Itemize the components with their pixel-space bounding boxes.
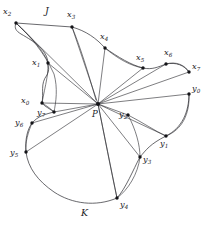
label-x2-subscript: 2 <box>8 11 12 17</box>
label-x5: x5 <box>136 53 144 62</box>
label-y4-base: y <box>120 199 125 209</box>
vertex-dot-y0 <box>187 92 190 95</box>
vertex-dot-y6 <box>30 121 33 124</box>
label-x2-base: x <box>3 6 8 16</box>
label-x5-subscript: 5 <box>141 57 145 63</box>
label-y3-base: y <box>143 154 148 164</box>
curve-y0-y1-arc <box>166 94 189 136</box>
label-x2: x2 <box>3 7 11 16</box>
label-x1-base: x <box>32 57 37 67</box>
label-y7: y7 <box>37 108 45 117</box>
label-x6: x6 <box>164 48 172 57</box>
figure-container: x0x1x2x3x4x5x6x7y0y1y2y3y4y5y6y7PJK <box>0 0 215 226</box>
chord-p-to-x3 <box>72 27 98 104</box>
label-y5-subscript: 5 <box>15 152 19 158</box>
vertex-dot-x7 <box>187 70 190 73</box>
label-y0-base: y <box>192 83 197 93</box>
chord-p-to-x2 <box>16 23 98 104</box>
label-x3: x3 <box>67 10 75 19</box>
vertex-dot-p <box>96 102 100 106</box>
label-y1-subscript: 1 <box>165 143 169 149</box>
label-region-k: K <box>81 208 88 217</box>
label-x7-subscript: 7 <box>197 66 201 72</box>
label-y6-base: y <box>15 117 20 127</box>
label-y5: y5 <box>10 148 18 157</box>
label-y4-subscript: 4 <box>125 204 129 210</box>
label-x4-subscript: 4 <box>105 36 109 42</box>
curve-x6-x7-arc <box>166 63 189 72</box>
vertex-dot-y3 <box>138 155 141 158</box>
label-y2-base: y <box>119 109 124 119</box>
label-x4: x4 <box>100 32 108 41</box>
label-y0: y0 <box>192 84 200 93</box>
label-x4-base: x <box>100 31 105 41</box>
label-x1: x1 <box>32 58 40 67</box>
label-x0: x0 <box>21 96 29 105</box>
label-y3-subscript: 3 <box>148 159 152 165</box>
vertex-dot-x3 <box>70 25 73 28</box>
vertex-dot-y5 <box>24 150 27 153</box>
label-x1-subscript: 1 <box>37 62 41 68</box>
label-y3: y3 <box>143 155 151 164</box>
curve-y2-y3-y4 <box>117 115 140 198</box>
label-region-j: J <box>45 6 49 15</box>
label-y2-subscript: 2 <box>124 114 128 120</box>
vertex-dot-x4 <box>103 46 106 49</box>
label-x7-base: x <box>192 61 197 71</box>
chord-p-to-x4 <box>98 48 105 104</box>
label-x7: x7 <box>192 62 200 71</box>
label-x3-subscript: 3 <box>72 14 76 20</box>
label-y2: y2 <box>119 110 127 119</box>
label-y7-subscript: 7 <box>42 112 46 118</box>
chord-p-to-x5 <box>98 68 143 104</box>
label-y1: y1 <box>160 139 168 148</box>
label-x0-base: x <box>21 95 26 105</box>
chord-p-to-x1 <box>48 63 98 104</box>
label-y7-base: y <box>37 107 42 117</box>
label-y4: y4 <box>120 200 128 209</box>
chord-p-to-y4 <box>98 104 117 198</box>
label-x0-subscript: 0 <box>26 100 30 106</box>
vertex-dot-x2 <box>14 21 17 24</box>
label-x5-base: x <box>136 52 141 62</box>
curve-y2-y1 <box>128 115 166 136</box>
label-x3-base: x <box>67 9 72 19</box>
chord-p-to-x0 <box>42 103 98 104</box>
vertex-dot-x6 <box>164 62 167 65</box>
chord-p-to-y1 <box>98 104 166 136</box>
label-x6-base: x <box>164 47 169 57</box>
label-y1-base: y <box>160 138 165 148</box>
label-y5-base: y <box>10 147 15 157</box>
vertex-dot-y4 <box>115 196 118 199</box>
vertex-dot-x0 <box>40 101 43 104</box>
label-y6-subscript: 6 <box>20 122 24 128</box>
vertex-dot-x5 <box>141 66 144 69</box>
label-x6-subscript: 6 <box>169 52 173 58</box>
label-y0-subscript: 0 <box>197 88 201 94</box>
vertex-dot-x1 <box>46 61 49 64</box>
label-y6: y6 <box>15 118 23 127</box>
label-point-p: P <box>92 110 98 119</box>
vertex-dot-y7 <box>52 110 55 113</box>
